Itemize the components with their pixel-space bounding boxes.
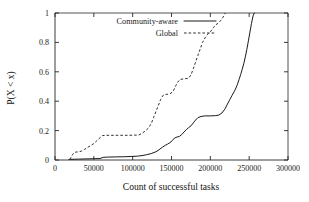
x-tick-label: 100000 [121,164,145,173]
chart-figure: 050000100000150000200000250000300000 00.… [0,0,309,202]
x-tick-label: 300000 [276,164,300,173]
legend-label-global: Global [156,29,179,38]
x-axis-title: Count of successful tasks [123,182,220,192]
y-axis-title: P(X < x) [6,71,17,104]
y-tick-label: 0.8 [39,38,49,47]
y-tick-label: 1 [45,9,49,18]
y-tick-label: 0.2 [39,127,49,136]
x-tick-label: 0 [53,164,57,173]
y-tick-label: 0 [45,156,49,165]
x-tick-label: 200000 [198,164,222,173]
x-tick-label: 250000 [237,164,261,173]
cdf-plot: 050000100000150000200000250000300000 00.… [0,0,309,202]
legend-label-community-aware: Community-aware [117,17,179,26]
y-tick-label: 0.4 [39,97,49,106]
y-tick-label: 0.6 [39,68,49,77]
x-tick-label: 150000 [160,164,184,173]
x-tick-label: 50000 [84,164,104,173]
